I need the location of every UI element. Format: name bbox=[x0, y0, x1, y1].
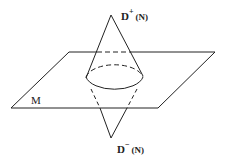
cone-diagram-svg bbox=[0, 0, 226, 158]
surface-m-label: M bbox=[31, 94, 41, 106]
future-domain-superscript: + bbox=[129, 7, 134, 16]
future-domain-label: D+(N) bbox=[121, 6, 148, 24]
past-domain-argument: (N) bbox=[132, 145, 145, 155]
diagram-canvas: D+(N) D−(N) M bbox=[0, 0, 226, 158]
future-cone-left-side bbox=[86, 15, 111, 78]
plane-m bbox=[11, 52, 215, 108]
future-cone-right-side bbox=[111, 15, 143, 76]
past-cone-right-side bbox=[111, 108, 127, 138]
ellipse-front-half bbox=[86, 77, 143, 89]
past-domain-symbol: D bbox=[117, 143, 125, 155]
future-domain-argument: (N) bbox=[136, 12, 149, 22]
intersection-ellipse bbox=[86, 65, 143, 89]
plane-right-edge bbox=[158, 52, 215, 108]
past-cone-right-hidden bbox=[127, 89, 137, 108]
past-cone-left-hidden bbox=[91, 89, 100, 108]
past-domain-label: D−(N) bbox=[117, 139, 144, 157]
future-domain-symbol: D bbox=[121, 10, 129, 22]
past-domain-superscript: − bbox=[125, 140, 130, 149]
ellipse-back-half bbox=[86, 65, 143, 77]
past-cone bbox=[91, 89, 137, 138]
past-cone-left-side bbox=[100, 108, 111, 138]
